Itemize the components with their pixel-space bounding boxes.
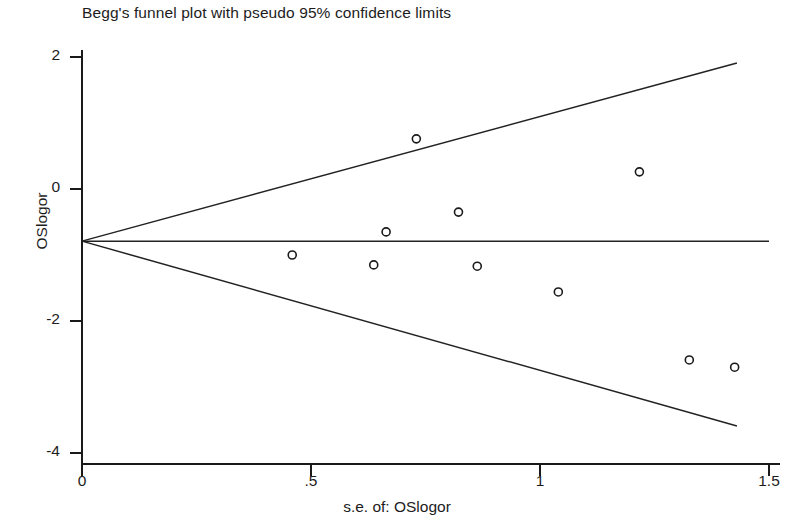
- funnel-plot-figure: Begg's funnel plot with pseudo 95% confi…: [0, 0, 794, 530]
- data-points-group: [288, 135, 738, 371]
- study-point-8: [685, 356, 693, 364]
- study-point-6: [554, 288, 562, 296]
- study-point-3: [412, 135, 420, 143]
- study-point-5: [473, 262, 481, 270]
- pseudo-95-upper-line: [82, 63, 737, 241]
- y-tick-marks: [70, 57, 82, 453]
- study-point-9: [731, 363, 739, 371]
- study-point-7: [635, 168, 643, 176]
- ci-lines-group: [82, 63, 769, 426]
- study-point-2: [382, 228, 390, 236]
- pseudo-95-lower-line: [82, 241, 737, 426]
- study-point-4: [454, 208, 462, 216]
- study-point-0: [288, 251, 296, 259]
- axes-group: [82, 50, 780, 464]
- study-point-1: [370, 261, 378, 269]
- x-tick-marks: [82, 464, 769, 476]
